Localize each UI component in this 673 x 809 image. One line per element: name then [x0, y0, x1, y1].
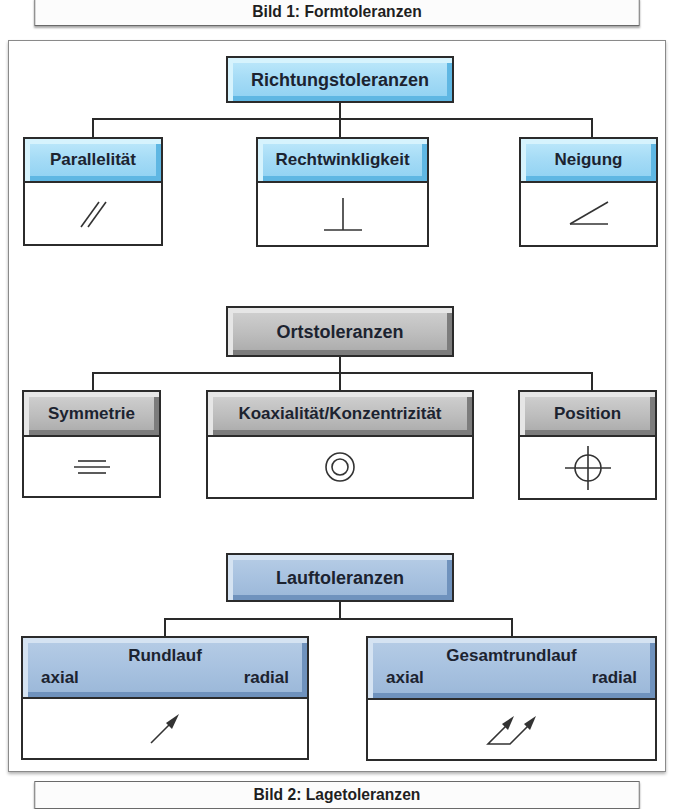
circular-runout-symbol: [23, 699, 307, 758]
circular-runout-axial: axial: [41, 668, 79, 688]
angularity-header: Neigung: [519, 137, 658, 183]
symmetry-icon: [72, 457, 112, 477]
total-runout-box: Gesamtrundlauf axial radial: [366, 636, 657, 761]
perpendicularity-box: Rechtwinkligkeit: [256, 137, 429, 247]
parallelism-icon: [73, 194, 113, 234]
parallelism-label: Parallelität: [25, 150, 161, 170]
total-runout-symbol: [368, 700, 655, 759]
connector: [339, 372, 341, 391]
connector: [92, 372, 94, 391]
connector: [92, 372, 593, 374]
connector: [92, 118, 593, 120]
connector: [511, 618, 513, 637]
circular-runout-box: Rundlauf axial radial: [21, 636, 309, 760]
symmetry-header: Symmetrie: [22, 390, 161, 437]
total-runout-axial: axial: [386, 668, 424, 688]
angularity-label: Neigung: [521, 150, 656, 170]
ort-header: Ortstoleranzen: [226, 306, 454, 357]
position-header: Position: [518, 390, 657, 437]
concentricity-box: Koaxialität/Konzentrizität: [206, 390, 474, 499]
figure-caption-top: Bild 1: Formtoleranzen: [34, 0, 639, 26]
parallelism-box: Parallelität: [23, 137, 163, 246]
perpendicularity-label: Rechtwinkligkeit: [258, 150, 427, 170]
richtung-title: Richtungstoleranzen: [228, 69, 452, 90]
parallelism-header: Parallelität: [23, 137, 163, 183]
symmetry-label: Symmetrie: [24, 404, 159, 424]
circular-runout-header: Rundlauf axial radial: [21, 636, 309, 699]
ort-title: Ortstoleranzen: [228, 321, 452, 342]
concentricity-label: Koaxialität/Konzentrizität: [208, 404, 472, 424]
connector: [164, 618, 513, 620]
total-runout-label: Gesamtrundlauf: [368, 646, 655, 666]
lauf-header: Lauftoleranzen: [226, 553, 454, 602]
perpendicularity-icon: [319, 192, 367, 236]
connector: [591, 372, 593, 391]
lauf-title: Lauftoleranzen: [228, 567, 452, 588]
figure-caption-bottom: Bild 2: Lagetoleranzen: [34, 781, 639, 809]
position-symbol: [520, 437, 655, 498]
circular-runout-icon: [147, 711, 183, 747]
circular-runout-label: Rundlauf: [23, 646, 307, 666]
angularity-symbol: [521, 183, 656, 245]
concentricity-icon: [323, 450, 357, 484]
symmetry-symbol: [24, 437, 159, 496]
richtung-header: Richtungstoleranzen: [226, 56, 454, 103]
position-box: Position: [518, 390, 657, 500]
connector: [339, 118, 341, 138]
position-label: Position: [520, 404, 655, 424]
connector: [92, 118, 94, 138]
total-runout-radial: radial: [592, 668, 637, 688]
circular-runout-radial: radial: [244, 668, 289, 688]
connector: [591, 118, 593, 138]
concentricity-header: Koaxialität/Konzentrizität: [206, 390, 474, 437]
perpendicularity-header: Rechtwinkligkeit: [256, 137, 429, 183]
connector: [339, 602, 341, 619]
total-runout-icon: [484, 712, 540, 748]
perpendicularity-symbol: [258, 183, 427, 245]
symmetry-box: Symmetrie: [22, 390, 161, 498]
concentricity-symbol: [208, 437, 472, 497]
connector: [164, 618, 166, 637]
total-runout-header: Gesamtrundlauf axial radial: [366, 636, 657, 700]
position-icon: [563, 445, 613, 491]
angularity-icon: [566, 199, 612, 229]
angularity-box: Neigung: [519, 137, 658, 247]
parallelism-symbol: [25, 183, 161, 244]
